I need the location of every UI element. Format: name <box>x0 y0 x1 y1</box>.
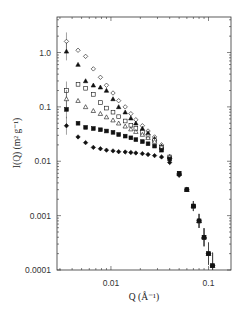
data-point <box>146 152 150 156</box>
data-points <box>64 32 214 270</box>
data-point <box>91 83 95 87</box>
data-point <box>84 86 88 90</box>
data-point <box>64 49 68 53</box>
data-point <box>134 138 138 142</box>
data-point <box>104 83 108 87</box>
data-point <box>129 150 133 154</box>
data-point <box>104 115 108 119</box>
data-point <box>134 121 138 125</box>
data-point <box>111 130 115 134</box>
y-tick-label: 1.0 <box>39 48 51 58</box>
data-point <box>83 105 87 109</box>
data-point <box>141 140 145 144</box>
data-point <box>111 110 115 114</box>
data-point <box>123 110 127 114</box>
data-point <box>104 148 108 152</box>
data-point <box>98 147 102 151</box>
data-point <box>134 151 138 155</box>
data-point <box>91 109 95 113</box>
data-point <box>111 149 115 153</box>
data-point <box>83 79 87 83</box>
data-point <box>84 126 88 130</box>
data-point <box>104 88 108 92</box>
x-tick-label: 0.01 <box>103 278 120 288</box>
data-point <box>111 118 115 122</box>
y-tick-label: 0.001 <box>30 211 52 221</box>
data-point <box>99 128 103 132</box>
data-point <box>123 124 127 128</box>
data-point <box>65 108 69 112</box>
data-point <box>76 135 80 139</box>
data-point <box>76 82 80 86</box>
data-point <box>76 98 80 102</box>
data-point <box>105 106 109 110</box>
data-point <box>123 119 127 123</box>
saxs-log-log-plot: 0.010.11.00.10.010.0010.0001 Q (Å⁻¹) I(Q… <box>0 0 244 315</box>
data-point <box>146 142 150 146</box>
data-point <box>129 111 133 115</box>
data-point <box>140 151 144 155</box>
axis-tick-labels: 0.010.11.00.10.010.0010.0001 <box>25 48 215 288</box>
data-point <box>91 67 95 71</box>
data-point <box>116 105 120 109</box>
data-point <box>76 62 80 66</box>
data-point <box>111 97 115 101</box>
y-tick-label: 0.0001 <box>25 265 51 275</box>
data-point <box>98 75 102 79</box>
data-point <box>76 121 80 125</box>
data-point <box>117 133 121 137</box>
data-point <box>116 149 120 153</box>
data-point <box>76 48 80 52</box>
data-point <box>105 129 109 133</box>
data-point <box>98 85 102 89</box>
data-point <box>91 92 95 96</box>
x-tick-label: 0.1 <box>203 278 215 288</box>
y-tick-label: 0.01 <box>34 156 51 166</box>
data-point <box>117 115 121 119</box>
data-point <box>64 97 68 101</box>
data-point <box>116 121 120 125</box>
data-point <box>160 148 164 152</box>
data-point <box>152 153 156 157</box>
data-point <box>123 150 127 154</box>
data-point <box>91 145 95 149</box>
data-point <box>99 101 103 105</box>
x-axis-title: Q (Å⁻¹) <box>129 291 159 303</box>
data-point <box>91 127 95 131</box>
data-point <box>129 116 133 120</box>
y-tick-label: 0.1 <box>39 102 51 112</box>
y-axis-title: I(Q) (m² g⁻¹) <box>12 118 23 168</box>
data-point <box>116 98 120 102</box>
data-point <box>153 144 157 148</box>
data-point <box>64 124 68 128</box>
data-point <box>129 136 133 140</box>
data-point <box>159 155 163 159</box>
data-point <box>83 54 87 58</box>
data-point <box>129 127 133 131</box>
data-point <box>123 134 127 138</box>
data-point <box>83 140 87 144</box>
data-point <box>111 91 115 95</box>
data-point <box>140 126 144 130</box>
data-point <box>123 105 127 109</box>
data-point <box>98 111 102 115</box>
